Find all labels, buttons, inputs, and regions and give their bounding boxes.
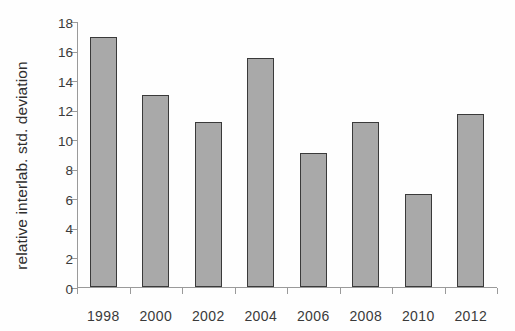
- y-axis-title: relative interlab. std. deviation: [0, 0, 44, 331]
- bar-chart-figure: relative interlab. std. deviation 024681…: [0, 0, 515, 331]
- x-tick-label-2004: 2004: [244, 308, 277, 324]
- y-tick-2: 2: [77, 258, 78, 259]
- y-tick-10: 10: [77, 140, 78, 141]
- bar-2006: [300, 153, 327, 287]
- y-tick-label: 12: [58, 104, 73, 119]
- x-tick-mark: [445, 288, 446, 294]
- x-tick-label-2010: 2010: [402, 308, 435, 324]
- y-tick-label: 10: [58, 133, 73, 148]
- y-tick-12: 12: [77, 111, 78, 112]
- plot-area: 024681012141618 199820002002200420062008…: [77, 22, 497, 288]
- y-tick-label: 14: [58, 74, 73, 89]
- x-tick-label-2006: 2006: [297, 308, 330, 324]
- x-tick-mark: [287, 288, 288, 294]
- x-tick-label-1998: 1998: [87, 308, 120, 324]
- x-tick-mark: [392, 288, 393, 294]
- y-axis-line: [77, 22, 78, 288]
- y-tick-16: 16: [77, 52, 78, 53]
- y-tick-label: 8: [65, 163, 73, 178]
- x-tick-label-2000: 2000: [139, 308, 172, 324]
- x-tick-mark: [497, 288, 498, 294]
- y-tick-label: 4: [65, 222, 73, 237]
- x-tick-mark: [130, 288, 131, 294]
- bar-2010: [405, 194, 432, 287]
- y-tick-label: 2: [65, 251, 73, 266]
- x-tick-mark: [77, 288, 78, 294]
- bar-1998: [90, 37, 117, 287]
- y-tick-6: 6: [77, 199, 78, 200]
- bar-2000: [142, 95, 169, 287]
- y-tick-14: 14: [77, 81, 78, 82]
- bar-2002: [195, 122, 222, 288]
- y-tick-18: 18: [77, 22, 78, 23]
- x-tick-label-2002: 2002: [192, 308, 225, 324]
- x-tick-mark: [182, 288, 183, 294]
- y-tick-8: 8: [77, 170, 78, 171]
- x-tick-mark: [340, 288, 341, 294]
- x-tick-mark: [235, 288, 236, 294]
- bar-2008: [352, 122, 379, 288]
- x-tick-label-2008: 2008: [349, 308, 382, 324]
- y-tick-label: 16: [58, 45, 73, 60]
- x-tick-label-2012: 2012: [454, 308, 487, 324]
- y-tick-label: 6: [65, 192, 73, 207]
- y-tick-label: 18: [58, 15, 73, 30]
- bar-2012: [457, 114, 484, 287]
- y-tick-label: 0: [65, 281, 73, 296]
- bar-2004: [247, 58, 274, 287]
- y-tick-4: 4: [77, 229, 78, 230]
